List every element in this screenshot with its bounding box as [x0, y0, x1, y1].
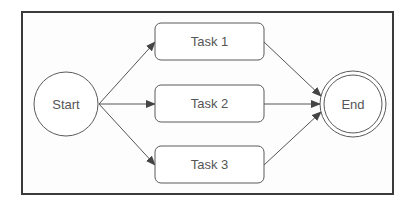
task3-label: Task 3	[191, 157, 229, 172]
start-label: Start	[52, 97, 80, 112]
diagram-canvas: Start Task 1 Task 2 Task 3 End	[0, 0, 411, 204]
task3-node[interactable]: Task 3	[155, 146, 264, 183]
start-node[interactable]: Start	[34, 72, 98, 136]
end-label: End	[341, 97, 364, 112]
task1-node[interactable]: Task 1	[155, 23, 264, 60]
task2-label: Task 2	[191, 96, 229, 111]
task2-node[interactable]: Task 2	[155, 85, 264, 122]
end-node[interactable]: End	[320, 71, 386, 137]
task1-label: Task 1	[191, 34, 229, 49]
